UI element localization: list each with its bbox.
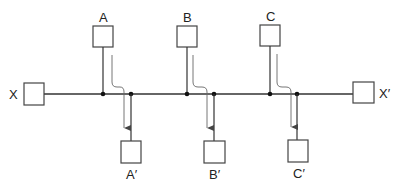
- flow-arrow-a: [112, 55, 124, 128]
- label-input-c: C: [266, 10, 275, 23]
- input-box-a: [93, 26, 113, 47]
- source-box-x: [24, 83, 44, 105]
- label-input-b: B: [183, 11, 192, 24]
- flow-arrow-c: [277, 54, 291, 127]
- label-output-a-prime: A′: [126, 168, 137, 181]
- label-output-c-prime: C′: [293, 167, 305, 180]
- junction-dot-b-in: [185, 92, 190, 97]
- input-box-b: [177, 26, 197, 47]
- bus-diagram: [0, 0, 402, 188]
- input-box-c: [260, 25, 280, 46]
- junction-dot-c-in: [268, 92, 273, 97]
- label-input-a: A: [99, 11, 108, 24]
- junction-dot-a-in: [101, 92, 106, 97]
- label-output-b-prime: B′: [209, 168, 220, 181]
- label-sink-x-prime: X′: [379, 87, 390, 100]
- output-box-c-prime: [288, 140, 308, 162]
- output-box-a-prime: [121, 141, 141, 163]
- sink-box-x-prime: [353, 82, 374, 103]
- flow-arrow-b: [193, 55, 207, 128]
- output-box-b-prime: [204, 141, 225, 163]
- label-source-x: X: [9, 88, 18, 101]
